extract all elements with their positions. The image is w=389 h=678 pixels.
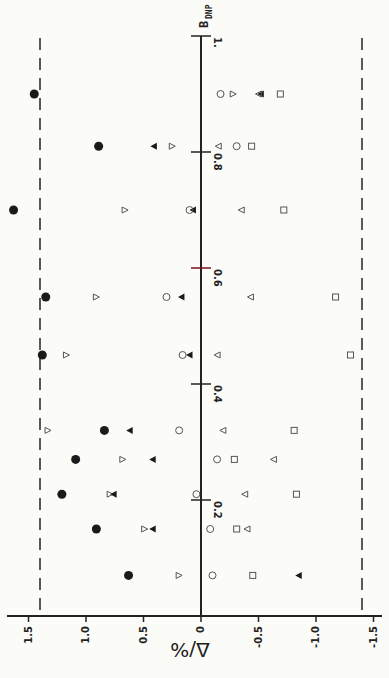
- point-open-triangle-right: [63, 352, 69, 358]
- point-open-square: [333, 294, 339, 300]
- point-open-triangle-right: [45, 427, 51, 433]
- y-tick-label: 0.6: [212, 269, 223, 287]
- point-filled-circle: [57, 490, 66, 499]
- point-open-circle: [176, 427, 183, 434]
- point-open-triangle-left: [238, 207, 244, 213]
- point-open-triangle-left: [220, 427, 226, 433]
- y-tick-label: 1.: [212, 37, 223, 48]
- point-open-square: [250, 572, 256, 578]
- point-open-triangle-right: [122, 207, 128, 213]
- y-axis-title-sub: DNP: [205, 4, 214, 19]
- point-open-square: [348, 352, 354, 358]
- point-open-triangle-right: [142, 526, 148, 532]
- point-filled-circle: [92, 525, 101, 534]
- point-open-triangle-left: [215, 143, 221, 149]
- point-filled-triangle-left: [149, 456, 156, 463]
- point-open-square: [293, 491, 299, 497]
- point-open-circle: [193, 491, 200, 498]
- point-filled-triangle-left: [126, 427, 133, 434]
- point-open-square: [249, 143, 255, 149]
- x-tick-label: 0: [195, 626, 206, 633]
- point-filled-circle: [9, 206, 18, 215]
- point-open-triangle-right: [176, 572, 182, 578]
- x-tick-label: 0.5: [138, 626, 149, 644]
- point-filled-circle: [41, 293, 50, 302]
- point-filled-circle: [100, 426, 109, 435]
- y-tick-label: 0.2: [212, 501, 223, 519]
- point-filled-circle: [94, 142, 103, 151]
- y-axis-title: B DNP: [197, 4, 214, 28]
- y-axis-title-main: B: [197, 21, 211, 28]
- point-filled-triangle-left: [178, 294, 185, 301]
- x-tick-label: -1.5: [368, 626, 379, 648]
- point-filled-circle: [38, 351, 47, 360]
- point-open-triangle-right: [230, 91, 236, 97]
- x-axis-title: Δ/%: [170, 638, 209, 662]
- point-open-triangle-right: [93, 294, 99, 300]
- point-open-circle: [209, 572, 216, 579]
- point-filled-triangle-left: [110, 491, 117, 498]
- point-open-square: [291, 427, 297, 433]
- point-filled-circle: [30, 90, 39, 99]
- point-filled-circle: [71, 455, 80, 464]
- point-open-circle: [207, 526, 214, 533]
- point-filled-triangle-left: [295, 572, 302, 579]
- point-open-square: [231, 456, 237, 462]
- point-open-circle: [163, 294, 170, 301]
- point-open-triangle-left: [244, 526, 250, 532]
- point-open-square: [277, 91, 283, 97]
- point-open-square: [234, 526, 240, 532]
- point-open-triangle-left: [247, 294, 253, 300]
- point-open-circle: [179, 352, 186, 359]
- point-open-circle: [214, 456, 221, 463]
- point-open-triangle-left: [270, 456, 276, 462]
- x-tick-label: 1.5: [23, 626, 34, 644]
- x-tick-label: -1.0: [310, 626, 321, 648]
- chart: 1.51.00.50-0.5-1.0-1.50.20.40.60.81. Δ/%…: [0, 0, 389, 678]
- point-open-circle: [233, 143, 240, 150]
- point-filled-triangle-left: [186, 352, 193, 359]
- x-tick-label: 1.0: [80, 626, 91, 644]
- point-open-triangle-left: [242, 491, 248, 497]
- y-tick-label: 0.8: [212, 153, 223, 171]
- point-open-triangle-left: [214, 352, 220, 358]
- point-filled-circle: [124, 571, 133, 580]
- y-tick-label: 0.4: [212, 385, 223, 403]
- point-open-triangle-right: [169, 143, 175, 149]
- point-open-triangle-right: [120, 456, 126, 462]
- point-open-square: [281, 207, 287, 213]
- x-tick-label: -0.5: [253, 626, 264, 648]
- point-open-circle: [217, 91, 224, 98]
- point-filled-triangle-left: [150, 143, 157, 150]
- point-filled-triangle-left: [149, 526, 156, 533]
